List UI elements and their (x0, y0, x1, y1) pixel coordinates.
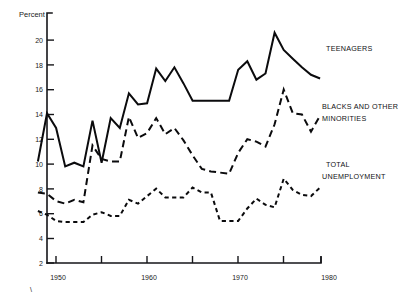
y-tick-label: 18 (35, 62, 43, 69)
annotation-blacks-line2: MINORITIES (322, 114, 366, 123)
annotation-total-line1: TOTAL (326, 160, 350, 169)
x-tick-label-1960: 1960 (141, 274, 157, 281)
y-axis-ticks (47, 40, 54, 263)
series-line-blacks-and-other-minorities (38, 90, 320, 204)
x-tick-label-1970: 1970 (232, 274, 248, 281)
annotation-blacks-line1: BLACKS AND OTHER (322, 102, 398, 111)
series-line-teenagers (38, 33, 320, 167)
y-tick-label: 10 (35, 161, 43, 168)
x-axis-tick-labels: 1950 1960 1970 1980 (50, 274, 337, 281)
y-axis-line (47, 13, 52, 263)
y-tick-label: 2 (39, 260, 43, 267)
y-tick-label: 20 (35, 37, 43, 44)
x-tick-label-1950: 1950 (50, 274, 66, 281)
x-axis-ticks (56, 256, 321, 263)
x-axis-line (47, 257, 321, 263)
series-annotations: TEENAGERS BLACKS AND OTHER MINORITIES TO… (322, 44, 398, 181)
chart-canvas: Percent 20 18 16 14 12 10 8 6 (0, 0, 417, 307)
annotation-teenagers: TEENAGERS (326, 44, 373, 53)
stray-corner-mark: \ (30, 286, 32, 293)
y-axis-title: Percent (19, 10, 46, 19)
y-tick-label: 14 (35, 111, 43, 118)
y-tick-label: 4 (39, 235, 43, 242)
y-tick-label: 8 (39, 186, 43, 193)
x-tick-label-1980: 1980 (321, 274, 337, 281)
unemployment-rate-chart: Percent 20 18 16 14 12 10 8 6 (0, 0, 417, 307)
annotation-total-line2: UNEMPLOYMENT (322, 172, 386, 181)
y-tick-label: 16 (35, 86, 43, 93)
